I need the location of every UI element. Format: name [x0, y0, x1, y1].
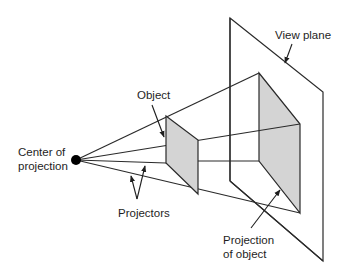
center-of-projection-point — [71, 155, 81, 165]
object-arrow — [152, 105, 164, 137]
projector-arrow-1 — [131, 176, 137, 199]
projection-of-object-label-line2: of object — [223, 247, 266, 262]
projection-arrow — [251, 190, 280, 228]
perspective-projection-diagram: View plane Object Center of projection P… — [0, 0, 346, 274]
view-plane-label: View plane — [275, 28, 331, 43]
projector-arrow-2 — [137, 166, 145, 199]
center-of-projection-label-line2: projection — [18, 159, 68, 174]
center-of-projection-label-line1: Center of — [18, 145, 65, 160]
object-label: Object — [137, 88, 170, 103]
projectors-label: Projectors — [118, 206, 170, 221]
projection-face — [259, 73, 300, 213]
view-plane-arrow — [285, 44, 292, 63]
projection-of-object-label-line1: Projection — [223, 233, 274, 248]
